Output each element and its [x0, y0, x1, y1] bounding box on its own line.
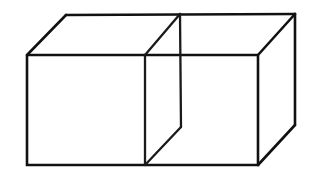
figure-canvas: Two-cube rectangular box line drawing [0, 0, 313, 174]
face-front-face [27, 55, 258, 165]
box-line-drawing: Two-cube rectangular box line drawing [0, 0, 313, 174]
edge-partition-back-vertical-edge [180, 14, 181, 127]
